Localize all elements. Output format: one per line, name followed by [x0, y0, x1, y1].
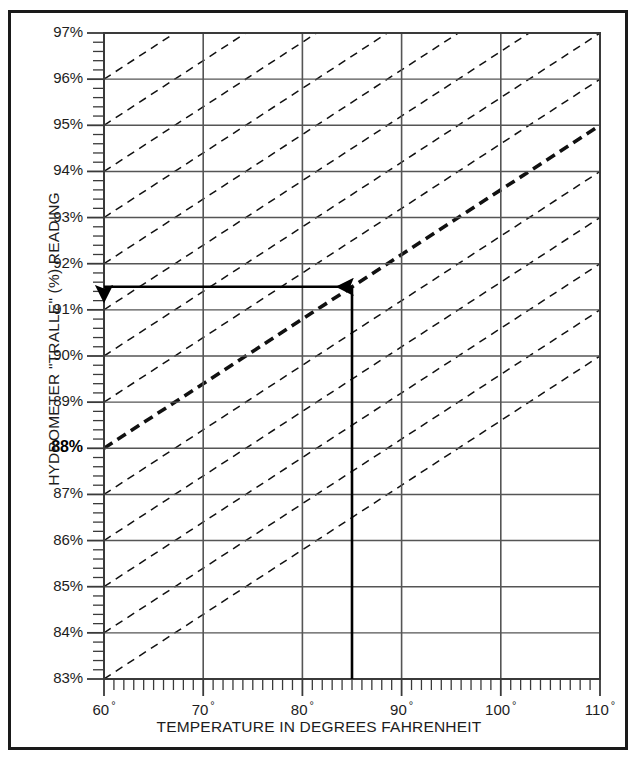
- correction-line-95: [104, 0, 600, 125]
- x-tick-label: 70°: [173, 699, 233, 718]
- correction-line-96: [104, 0, 600, 79]
- y-tick-label: 85%: [31, 577, 83, 594]
- y-tick-label: 96%: [31, 69, 83, 86]
- correction-line-94: [104, 0, 600, 171]
- y-tick-label: 95%: [31, 115, 83, 132]
- correction-line-97: [104, 0, 600, 33]
- plot-canvas: [0, 0, 638, 762]
- y-axis-title: HYDROMETER "TRALLE" (%) READING: [45, 159, 63, 519]
- x-tick-label: 60°: [74, 699, 134, 718]
- x-axis-title: TEMPERATURE IN DEGREES FAHRENHEIT: [0, 718, 638, 736]
- correction-line-92: [104, 0, 600, 264]
- x-tick-label: 80°: [272, 699, 332, 718]
- x-tick-label: 90°: [372, 699, 432, 718]
- chart-figure: 83%84%85%86%87%88%89%90%91%92%93%94%95%9…: [0, 0, 638, 762]
- y-tick-label: 86%: [31, 531, 83, 548]
- y-tick-label: 84%: [31, 623, 83, 640]
- annotations-group: [104, 287, 352, 679]
- x-tick-label: 100°: [471, 699, 531, 718]
- y-tick-label: 83%: [31, 669, 83, 686]
- x-tick-label: 110°: [570, 699, 630, 718]
- y-tick-label: 97%: [31, 23, 83, 40]
